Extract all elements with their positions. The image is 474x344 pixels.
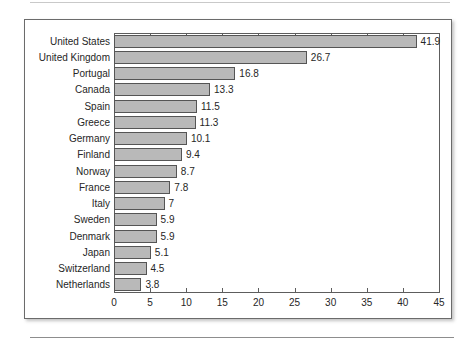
bar (114, 213, 157, 226)
bar-row: 13.3 (114, 83, 440, 96)
bar-row: 11.3 (114, 116, 440, 129)
bar-row: 41.9 (114, 35, 440, 48)
category-label: Germany (25, 132, 110, 145)
bar-value-label: 4.5 (151, 262, 165, 275)
bar (114, 262, 147, 275)
bar-row: 5.9 (114, 230, 440, 243)
bar (114, 51, 307, 64)
bar-row: 5.1 (114, 246, 440, 259)
x-tick-label: 20 (253, 297, 264, 308)
bar (114, 230, 157, 243)
chart-frame: 051015202530354045 41.926.716.813.311.51… (24, 19, 452, 319)
bar-value-label: 41.9 (421, 35, 440, 48)
x-tick-label: 30 (325, 297, 336, 308)
bar-value-label: 9.4 (186, 148, 200, 161)
bar-value-label: 7 (169, 197, 175, 210)
category-label: Canada (25, 83, 110, 96)
category-label: Netherlands (25, 278, 110, 291)
category-label: Sweden (25, 213, 110, 226)
x-tick-label: 40 (397, 297, 408, 308)
bar-row: 7 (114, 197, 440, 210)
bar-row: 9.4 (114, 148, 440, 161)
x-tick-label: 10 (181, 297, 192, 308)
x-tick-label: 5 (147, 297, 153, 308)
chart-page: 051015202530354045 41.926.716.813.311.51… (0, 0, 474, 344)
bar-row: 5.9 (114, 213, 440, 226)
bar-value-label: 11.3 (200, 116, 219, 129)
category-label: Italy (25, 197, 110, 210)
x-tick-label: 0 (111, 297, 117, 308)
bar-row: 7.8 (114, 181, 440, 194)
category-label: Spain (25, 100, 110, 113)
bar (114, 67, 235, 80)
category-label: United States (25, 35, 110, 48)
bar-value-label: 26.7 (311, 51, 330, 64)
category-label: United Kingdom (25, 51, 110, 64)
bar-value-label: 3.8 (145, 278, 159, 291)
bar-value-label: 5.9 (161, 213, 175, 226)
category-label: Norway (25, 165, 110, 178)
bar (114, 35, 417, 48)
bar-value-label: 11.5 (201, 100, 220, 113)
bar (114, 181, 170, 194)
bar-row: 16.8 (114, 67, 440, 80)
bar (114, 246, 151, 259)
bar (114, 83, 210, 96)
category-label: Japan (25, 246, 110, 259)
bar (114, 165, 177, 178)
bar-row: 10.1 (114, 132, 440, 145)
bar-value-label: 5.9 (161, 230, 175, 243)
bar (114, 197, 165, 210)
x-tick-label: 25 (289, 297, 300, 308)
bar-row: 3.8 (114, 278, 440, 291)
category-label: Finland (25, 148, 110, 161)
bar-row: 26.7 (114, 51, 440, 64)
bar-value-label: 10.1 (191, 132, 210, 145)
bar-value-label: 13.3 (214, 83, 233, 96)
bar-value-label: 8.7 (181, 165, 195, 178)
bar (114, 132, 187, 145)
axis-bottom (114, 292, 440, 293)
bar-value-label: 16.8 (239, 67, 258, 80)
category-label: Portugal (25, 67, 110, 80)
bar-row: 8.7 (114, 165, 440, 178)
bar-row: 11.5 (114, 100, 440, 113)
category-label: Denmark (25, 230, 110, 243)
bar (114, 116, 196, 129)
x-tick-label: 45 (433, 297, 444, 308)
category-label: Greece (25, 116, 110, 129)
plot-area: 051015202530354045 41.926.716.813.311.51… (114, 33, 440, 293)
bar (114, 148, 182, 161)
bar-value-label: 7.8 (174, 181, 188, 194)
bar-row: 4.5 (114, 262, 440, 275)
category-label: France (25, 181, 110, 194)
top-divider-rule (30, 2, 450, 3)
bar (114, 100, 197, 113)
bottom-divider-rule (30, 337, 454, 338)
category-label: Switzerland (25, 262, 110, 275)
x-tick-label: 15 (217, 297, 228, 308)
bar-value-label: 5.1 (155, 246, 169, 259)
bar (114, 278, 141, 291)
x-tick-label: 35 (361, 297, 372, 308)
